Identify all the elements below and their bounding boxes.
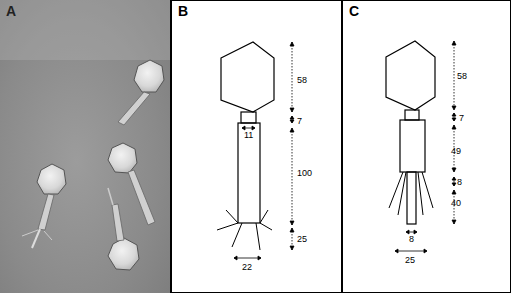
dim-baseplate-width-b: 22 [242,262,252,272]
panel-label-b: B [178,3,188,19]
dim-head-b: 58 [297,75,307,85]
dim-fiber-span-c: 25 [405,255,415,265]
dim-head-c: 58 [457,71,467,81]
micrograph-image [0,0,170,293]
dim-tail-b: 100 [297,168,312,178]
dim-sheath-c: 49 [451,146,461,156]
tail-core-shape [407,172,416,224]
panel-b-schematic: 58 7 11 100 25 22 B [170,0,341,293]
schematic-b: 58 7 11 100 25 22 [172,0,343,293]
panel-label-a: A [6,3,16,19]
panel-a-micrograph: A [0,0,170,293]
dim-collar-b: 7 [297,116,302,126]
panel-c-schematic: 58 7 49 8 40 8 25 C [341,0,513,293]
head-shape [221,42,274,112]
schematic-c: 58 7 49 8 40 8 25 [343,0,513,293]
head-shape [386,41,435,110]
tail-fibers [389,172,433,215]
dim-baseplate-b: 25 [297,234,307,244]
dim-collar-c: 7 [459,113,464,123]
dim-collar-width-b: 11 [244,130,253,140]
dim-core-c: 40 [451,198,461,208]
dim-gap-c: 8 [457,177,462,187]
panel-label-c: C [349,3,359,19]
contracted-sheath-shape [400,120,425,172]
dim-core-width-c: 8 [409,234,414,244]
collar-shape [241,112,256,123]
collar-shape [405,110,419,120]
tail-fibers [217,210,272,250]
